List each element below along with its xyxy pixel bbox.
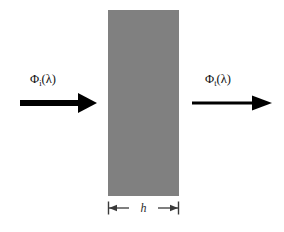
thickness-label: h — [141, 201, 147, 215]
figure-container: Φi(λ) Φt(λ) h — [0, 0, 284, 232]
incident-argument: (λ) — [42, 72, 56, 86]
sample-slab — [108, 10, 179, 196]
incident-arrow-shaft — [20, 100, 81, 106]
incident-phi-symbol: Φ — [30, 72, 39, 86]
transmitted-argument: (λ) — [217, 72, 231, 86]
transmitted-flux-label: Φt(λ) — [205, 72, 231, 88]
transmitted-phi-symbol: Φ — [205, 72, 214, 86]
transmission-diagram: Φi(λ) Φt(λ) h — [0, 0, 284, 232]
transmitted-arrow-shaft — [192, 102, 255, 105]
incident-flux-label: Φi(λ) — [30, 72, 56, 88]
